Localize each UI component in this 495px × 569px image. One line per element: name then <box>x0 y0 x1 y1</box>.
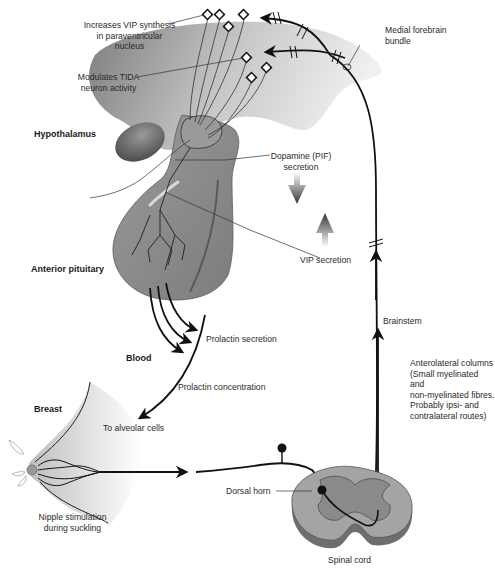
dopamine-label: Dopamine (PIF) secretion <box>266 151 336 172</box>
spinal-cord-label: Spinal cord <box>328 555 371 566</box>
blood-label: Blood <box>126 353 152 364</box>
prolactin-secretion-label: Prolactin secretion <box>206 334 277 345</box>
nipple-stimulation-label: Nipple stimulation during suckling <box>30 512 115 533</box>
medial-forebrain-label: Medial forebrain bundle <box>385 25 465 46</box>
vip-synthesis-label: Increases VIP synthesis in paraventricul… <box>82 20 177 52</box>
milk-droplets <box>9 440 26 486</box>
vip-up-arrow <box>316 213 334 247</box>
brainstem-label: Brainstem <box>383 316 422 327</box>
spinal-cord <box>292 466 412 548</box>
anterolateral-label: Anterolateral columns (Small myelinated … <box>410 358 495 421</box>
breast-label: Breast <box>34 404 62 415</box>
anterior-pituitary-label: Anterior pituitary <box>31 264 104 275</box>
nipple <box>27 465 37 475</box>
hypothalamus-label: Hypothalamus <box>34 129 96 140</box>
alveolar-label: To alveolar cells <box>103 423 164 434</box>
dorsal-horn-label: Dorsal horn <box>226 486 270 497</box>
tida-label: Modulates TIDA neuron activity <box>76 72 141 93</box>
dopamine-down-arrow <box>288 172 306 204</box>
dorsal-root-ganglion <box>278 444 287 453</box>
prolactin-concentration-label: Prolactin concentration <box>178 382 265 393</box>
vip-secretion-label: VIP secretion <box>300 255 351 266</box>
